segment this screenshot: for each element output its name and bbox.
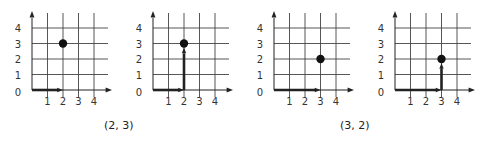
y-tick-label: 3 <box>378 39 384 50</box>
y-tick-label: 2 <box>15 54 21 65</box>
y-tick-label: 3 <box>136 39 142 50</box>
x-tick-label: 4 <box>212 96 218 107</box>
plotted-point <box>437 55 445 63</box>
y-tick-label: 2 <box>257 54 263 65</box>
x-axis-arrow-icon <box>106 88 112 93</box>
y-tick-label: 1 <box>136 70 142 81</box>
x-tick-label: 1 <box>407 96 413 107</box>
grid-lines <box>153 13 229 97</box>
grid-lines <box>395 13 471 97</box>
y-axis-arrow-icon <box>272 11 277 17</box>
x-tick-label: 4 <box>454 96 460 107</box>
x-tick-label: 1 <box>286 96 292 107</box>
x-tick-label: 4 <box>91 96 97 107</box>
plotted-point <box>316 55 324 63</box>
coordinate-grid: 012341234 <box>363 0 484 110</box>
plotted-point <box>59 39 67 47</box>
x-axis-arrow-icon <box>469 88 475 93</box>
x-tick-label: 2 <box>302 96 308 107</box>
x-tick-label: 3 <box>438 96 444 107</box>
y-tick-label: 1 <box>257 70 263 81</box>
y-tick-label: 3 <box>257 39 263 50</box>
coordinate-grid: 012341234 <box>0 0 121 110</box>
x-tick-label: 3 <box>317 96 323 107</box>
grid-panel-4: 012341234 <box>363 0 484 110</box>
y-tick-label: 2 <box>136 54 142 65</box>
x-tick-label: 4 <box>333 96 339 107</box>
plotted-point <box>180 39 188 47</box>
y-axis-arrow-icon <box>393 11 398 17</box>
grid-panel-2: 012341234 <box>121 0 242 110</box>
y-tick-label: 1 <box>15 70 21 81</box>
caption-point-3-2: (3, 2) <box>340 119 370 132</box>
x-tick-label: 2 <box>423 96 429 107</box>
grid-lines <box>274 13 350 97</box>
y-tick-label: 0 <box>257 87 263 98</box>
y-tick-label: 1 <box>378 70 384 81</box>
x-axis-arrow-icon <box>348 88 354 93</box>
x-vector-arrow-icon <box>57 88 63 92</box>
coordinate-grid: 012341234 <box>121 0 242 110</box>
y-tick-label: 4 <box>257 23 263 34</box>
y-tick-label: 0 <box>15 87 21 98</box>
y-vector-arrow-icon <box>439 63 443 69</box>
caption-point-2-3: (2, 3) <box>104 119 134 132</box>
y-axis-arrow-icon <box>151 11 156 17</box>
x-vector-arrow-icon <box>315 88 321 92</box>
y-tick-label: 4 <box>136 23 142 34</box>
y-tick-label: 2 <box>378 54 384 65</box>
coordinate-grid: 012341234 <box>242 0 363 110</box>
y-tick-label: 4 <box>15 23 21 34</box>
grid-panel-1: 012341234 <box>0 0 121 110</box>
x-axis-arrow-icon <box>227 88 233 93</box>
x-tick-label: 2 <box>181 96 187 107</box>
x-tick-label: 3 <box>196 96 202 107</box>
x-tick-label: 1 <box>165 96 171 107</box>
y-vector-arrow-icon <box>182 48 186 54</box>
y-tick-label: 4 <box>378 23 384 34</box>
x-tick-label: 2 <box>60 96 66 107</box>
y-tick-label: 3 <box>15 39 21 50</box>
y-tick-label: 0 <box>136 87 142 98</box>
x-tick-label: 1 <box>44 96 50 107</box>
grid-lines <box>32 13 108 97</box>
y-axis-arrow-icon <box>30 11 35 17</box>
grid-panel-3: 012341234 <box>242 0 363 110</box>
y-tick-label: 0 <box>378 87 384 98</box>
x-tick-label: 3 <box>75 96 81 107</box>
